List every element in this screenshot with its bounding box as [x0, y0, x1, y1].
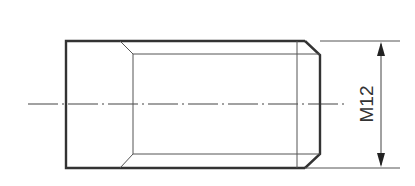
left-chamfer-bottom — [120, 154, 133, 168]
arrow-down-icon — [377, 153, 385, 167]
left-chamfer-top — [120, 41, 133, 54]
dimension-label: M12 — [356, 86, 377, 123]
arrow-up-icon — [377, 42, 385, 56]
technical-drawing: M12 — [0, 0, 415, 186]
